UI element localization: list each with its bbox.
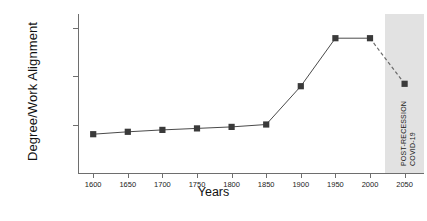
- data-point-marker: [229, 124, 235, 130]
- x-tick-mark: [335, 173, 336, 178]
- data-point-marker: [332, 35, 338, 41]
- data-point-marker: [159, 127, 165, 133]
- data-point-marker: [263, 121, 269, 127]
- annotation-post-recession: POST-RECESSION: [400, 101, 407, 166]
- x-tick-mark: [370, 173, 371, 178]
- x-tick-mark: [301, 173, 302, 178]
- x-tick-mark: [266, 173, 267, 178]
- data-point-marker: [367, 35, 373, 41]
- data-point-marker: [90, 131, 96, 137]
- data-point-marker: [298, 83, 304, 89]
- x-tick-mark: [128, 173, 129, 178]
- data-point-marker: [194, 125, 200, 131]
- x-axis-line: [78, 173, 424, 174]
- data-series-line: [78, 14, 424, 173]
- annotation-covid-19: COVID-19: [409, 132, 416, 166]
- series-solid-segment: [93, 38, 370, 134]
- series-dashed-forecast-segment: [370, 38, 405, 84]
- x-tick-mark: [162, 173, 163, 178]
- x-tick-mark: [405, 173, 406, 178]
- y-axis-title: Degree/Work Alignment: [25, 9, 40, 175]
- plot-area: HighModerateMinimal 16001650170017501800…: [78, 14, 424, 173]
- x-axis-title: Years: [0, 185, 427, 199]
- data-point-marker: [402, 81, 408, 87]
- x-tick-mark: [197, 173, 198, 178]
- x-tick-mark: [93, 173, 94, 178]
- chart-figure: Degree/Work Alignment HighModerateMinima…: [0, 0, 427, 221]
- data-point-marker: [125, 129, 131, 135]
- x-tick-mark: [232, 173, 233, 178]
